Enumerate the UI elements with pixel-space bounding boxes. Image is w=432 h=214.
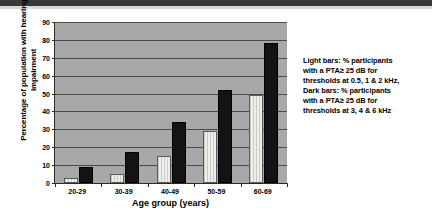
y-axis-tickmark xyxy=(52,94,55,95)
y-axis-tickmark xyxy=(52,165,55,166)
bar-dark-50-59 xyxy=(218,90,232,183)
legend-line-2: with a PTA≥ 25 dB for xyxy=(303,66,427,76)
x-axis-tick-label: 50-59 xyxy=(193,188,239,196)
x-axis-title: Age group (years) xyxy=(54,198,287,208)
chart-page: Percentage of population with hearing im… xyxy=(0,0,432,214)
legend-line-4: Dark bars: % participants xyxy=(303,86,427,96)
y-axis-tick-label: 0 xyxy=(30,180,50,187)
bar-chart-figure: Percentage of population with hearing im… xyxy=(0,12,292,214)
bar-dark-60-69 xyxy=(264,43,278,183)
legend-line-1: Light bars: % participants xyxy=(303,56,427,66)
x-axis-tick-label: 60-69 xyxy=(240,188,286,196)
x-axis-tick-label: 20-29 xyxy=(54,188,100,196)
gridline xyxy=(55,40,287,41)
bar-dark-30-39 xyxy=(125,152,139,183)
y-axis-tickmark xyxy=(52,147,55,148)
bar-light-30-39 xyxy=(110,174,124,183)
bar-light-20-29 xyxy=(64,178,78,183)
y-axis-tick-label: 90 xyxy=(30,19,50,26)
gridline xyxy=(55,22,287,23)
plot-area xyxy=(54,22,287,184)
y-axis-tickmark xyxy=(52,22,55,23)
y-axis-tick-label: 60 xyxy=(30,72,50,79)
y-axis-tick-label: 10 xyxy=(30,162,50,169)
bar-light-40-49 xyxy=(157,156,171,183)
y-axis-tick-label: 30 xyxy=(30,126,50,133)
bar-light-50-59 xyxy=(203,131,217,183)
gridline xyxy=(55,58,287,59)
scan-artifact-band-light xyxy=(0,6,432,9)
x-axis-tick-label: 40-49 xyxy=(147,188,193,196)
y-axis-tick-label: 40 xyxy=(30,108,50,115)
y-axis-tickmark xyxy=(52,40,55,41)
y-axis-tickmark xyxy=(52,129,55,130)
y-axis-tick-label: 50 xyxy=(30,90,50,97)
legend-line-5: with a PTA≥ 25 dB for xyxy=(303,96,427,106)
legend-line-3: thresholds at 0.5, 1 & 2 kHz, xyxy=(303,76,427,86)
y-axis-tickmark xyxy=(52,76,55,77)
bar-dark-20-29 xyxy=(79,167,93,183)
x-axis-tickmark xyxy=(287,183,288,187)
legend-line-6: thresholds at 3, 4 & 6 kHz xyxy=(303,106,427,116)
y-axis-tick-label: 80 xyxy=(30,36,50,43)
y-axis-tick-label: 20 xyxy=(30,144,50,151)
gridline xyxy=(55,76,287,77)
y-axis-tick-labels: 0102030405060708090 xyxy=(30,12,50,187)
x-axis-tick-label: 30-39 xyxy=(100,188,146,196)
bar-light-60-69 xyxy=(249,95,263,183)
y-axis-tick-label: 70 xyxy=(30,54,50,61)
bar-dark-40-49 xyxy=(172,122,186,183)
y-axis-tickmark xyxy=(52,111,55,112)
y-axis-tickmark xyxy=(52,58,55,59)
legend-text-block: Light bars: % participantswith a PTA≥ 25… xyxy=(303,56,427,115)
